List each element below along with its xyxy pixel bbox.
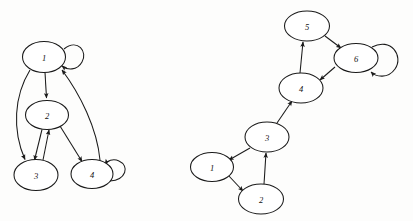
node-label: 5 (305, 22, 309, 32)
node-label: 1 (210, 163, 214, 173)
node-right-5[interactable]: 5 (285, 11, 330, 41)
left-directed-graph: 1 2 3 4 (14, 42, 125, 191)
edge-L3-L2 (43, 130, 49, 160)
node-left-4[interactable]: 4 (71, 160, 113, 189)
node-left-2[interactable]: 2 (26, 101, 69, 130)
node-left-1[interactable]: 1 (23, 42, 66, 73)
graph-figure: 1 2 3 4 (0, 0, 413, 221)
node-label: 1 (42, 53, 46, 63)
edge-R1-R2 (228, 175, 243, 191)
edge-L1-L2 (45, 73, 47, 99)
right-directed-graph: 1 2 3 4 5 6 (191, 11, 398, 214)
edge-R6-R4 (320, 67, 335, 80)
node-left-3[interactable]: 3 (14, 160, 58, 191)
node-label: 3 (264, 133, 269, 143)
node-right-1[interactable]: 1 (191, 153, 234, 182)
edge-L2-L3 (35, 130, 43, 161)
edge-L2-L4 (60, 126, 82, 162)
edge-R4-R5 (300, 42, 303, 73)
edge-R2-R3 (264, 153, 266, 184)
edge-R3-R4 (277, 101, 292, 123)
node-right-6[interactable]: 6 (334, 44, 378, 73)
node-right-4[interactable]: 4 (279, 73, 323, 103)
figure-canvas: 1 2 3 4 (0, 0, 413, 221)
node-right-3[interactable]: 3 (245, 122, 289, 152)
node-label: 3 (33, 171, 38, 181)
edge-R3-R1 (229, 148, 250, 160)
edge-R5-R6 (325, 36, 341, 48)
node-right-2[interactable]: 2 (239, 184, 284, 214)
